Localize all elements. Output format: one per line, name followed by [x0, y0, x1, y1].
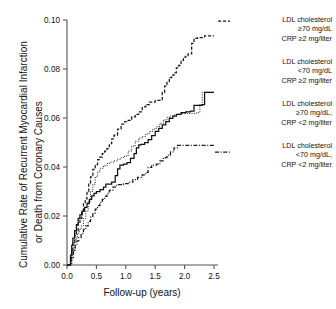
- legend-entry-3-line-0: LDL cholesterol: [232, 141, 332, 150]
- chart-axes: 0.00.51.01.52.02.50.000.020.040.060.080.…: [44, 16, 220, 281]
- legend-entry-2: LDL cholesterol ≥70 mg/dL, CRP <2 mg/lit…: [232, 99, 332, 127]
- y-tick-label-3: 0.06: [44, 114, 60, 123]
- series-line-1: [67, 92, 214, 265]
- y-axis-title-line1: Cumulative Rate of Recurrent Myocardial …: [18, 41, 29, 268]
- legend-sample-lines: [215, 21, 230, 152]
- x-tick-label-5: 2.5: [208, 272, 220, 281]
- legend-entry-3: LDL cholesterol <70 mg/dL, CRP <2 mg/lit…: [232, 141, 332, 169]
- y-tick-label-0: 0.00: [44, 261, 60, 270]
- x-axis-title: Follow-up (years): [52, 287, 232, 298]
- series-line-3: [67, 145, 214, 265]
- y-tick-label-2: 0.04: [44, 163, 60, 172]
- legend-entry-0-line-1: ≥70 mg/dL: [232, 24, 332, 33]
- legend-entry-3-line-2: CRP <2 mg/liter: [232, 160, 332, 169]
- y-tick-label-5: 0.10: [44, 16, 60, 25]
- legend-entry-1-line-0: LDL cholesterol: [232, 57, 332, 66]
- legend-entry-0-line-2: CRP ≥2 mg/liter: [232, 34, 332, 43]
- legend-entry-0-line-0: LDL cholesterol: [232, 15, 332, 24]
- series-line-2: [67, 92, 214, 265]
- legend-entry-3-line-1: <70 mg/dL,: [232, 150, 332, 159]
- x-tick-label-0: 0.0: [61, 272, 73, 281]
- y-axis-title-line2: or Death from Coronary Causes: [33, 101, 44, 243]
- legend-entry-0: LDL cholesterol ≥70 mg/dL CRP ≥2 mg/lite…: [232, 15, 332, 43]
- y-tick-label-4: 0.08: [44, 65, 60, 74]
- y-tick-label-1: 0.02: [44, 212, 60, 221]
- legend-entry-2-line-0: LDL cholesterol: [232, 99, 332, 108]
- x-tick-label-2: 1.0: [120, 272, 132, 281]
- x-tick-label-1: 0.5: [91, 272, 103, 281]
- x-tick-label-3: 1.5: [150, 272, 162, 281]
- x-tick-label-4: 2.0: [179, 272, 191, 281]
- legend-entry-2-line-1: ≥70 mg/dL,: [232, 108, 332, 117]
- figure-container: 0.00.51.01.52.02.50.000.020.040.060.080.…: [0, 0, 336, 309]
- legend-entry-1-line-1: <70 mg/dL: [232, 66, 332, 75]
- chart-curves: [67, 36, 214, 265]
- series-line-0: [67, 36, 214, 265]
- legend-entry-2-line-2: CRP <2 mg/liter: [232, 118, 332, 127]
- legend-entry-1-line-2: CRP ≥2 mg/liter: [232, 76, 332, 85]
- legend-entry-1: LDL cholesterol <70 mg/dL CRP ≥2 mg/lite…: [232, 57, 332, 85]
